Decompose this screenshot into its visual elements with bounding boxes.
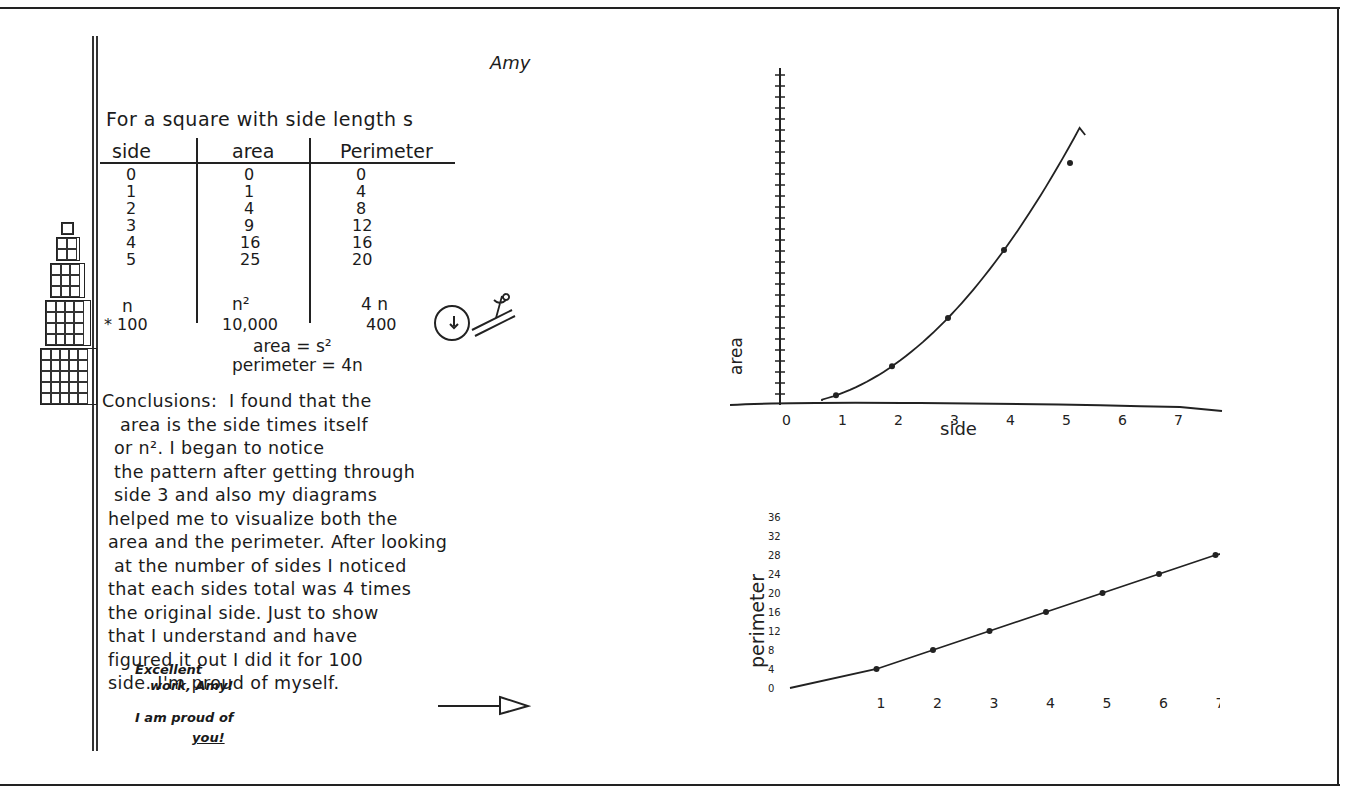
square-diagram — [50, 263, 85, 298]
x-tick-label: 4 — [1046, 695, 1055, 711]
table-cell: 8 — [356, 200, 366, 217]
data-point — [1213, 552, 1219, 558]
perimeter-vs-side-chart: 048121620242832361234567perimeter — [720, 490, 1220, 730]
table-cell: 1 — [244, 183, 254, 200]
data-point — [987, 628, 993, 634]
snail-doodle-icon — [420, 280, 540, 360]
x-tick-label: 1 — [877, 695, 886, 711]
y-tick-label: 16 — [768, 607, 781, 618]
table-header-area: area — [232, 140, 274, 162]
x-tick-label: 6 — [1118, 412, 1127, 428]
x-tick-label: 2 — [933, 695, 942, 711]
data-point — [874, 666, 880, 672]
right-arrow-icon — [436, 694, 531, 718]
x-tick-label: 5 — [1103, 695, 1112, 711]
x-tick-label: 2 — [894, 412, 903, 428]
table-cell: 4 — [244, 200, 254, 217]
x-tick-label: 0 — [782, 412, 791, 428]
y-axis-label: area — [726, 337, 746, 375]
x-axis — [730, 403, 1222, 411]
x-tick-label: 7 — [1216, 695, 1221, 711]
conclusions-text: Conclusions: I found that the area is th… — [102, 390, 447, 696]
x-tick-label: 4 — [1006, 412, 1015, 428]
table-cell: 1 — [126, 183, 136, 200]
table-header-perimeter: Perimeter — [340, 140, 433, 162]
page-frame-right — [1337, 7, 1339, 786]
square-diagram — [45, 300, 91, 346]
y-tick-label: 28 — [768, 550, 781, 561]
table-cell: 5 — [126, 251, 136, 268]
table-cell: 25 — [240, 251, 260, 268]
teacher-comment-line4: you! — [192, 730, 225, 745]
area-formula: area = s² — [253, 336, 332, 356]
table-header-side: side — [112, 140, 151, 162]
square-diagram — [40, 348, 97, 405]
x-tick-label: 7 — [1174, 412, 1183, 428]
table-cell: 0 — [244, 166, 254, 183]
example-side: * 100 — [104, 316, 148, 333]
intro-text: For a square with side length s — [106, 108, 414, 130]
y-tick-label: 12 — [768, 626, 781, 637]
teacher-comment-line1: Excellent — [135, 662, 202, 677]
example-perimeter: 400 — [366, 316, 397, 333]
data-point — [1100, 590, 1106, 596]
data-point — [1156, 571, 1162, 577]
table-cell: 20 — [352, 251, 372, 268]
square-diagrams — [40, 220, 95, 407]
y-tick-label: 4 — [768, 664, 774, 675]
table-cell: 0 — [356, 166, 366, 183]
teacher-comment-line2: work, Amy! — [150, 678, 233, 693]
table-cell: 3 — [126, 217, 136, 234]
table-cell: 2 — [126, 200, 136, 217]
table-cell: 9 — [244, 217, 254, 234]
table-header-rule — [100, 162, 455, 164]
table-divider — [196, 138, 198, 323]
square-diagram — [61, 222, 74, 235]
x-tick-label: 6 — [1159, 695, 1168, 711]
y-tick-label: 8 — [768, 645, 774, 656]
perimeter-formula: perimeter = 4n — [232, 355, 363, 375]
general-area: n² — [232, 296, 250, 313]
student-name: Amy — [490, 52, 531, 73]
table-cell: 16 — [352, 234, 372, 251]
square-diagram — [56, 237, 80, 261]
general-side: n — [122, 298, 133, 315]
data-point — [945, 315, 951, 321]
table-cell: 12 — [352, 217, 372, 234]
example-area: 10,000 — [222, 316, 278, 333]
teacher-comment-line3: I am proud of — [135, 710, 234, 725]
data-point — [889, 363, 895, 369]
area-vs-side-chart: 01234567sidearea — [720, 50, 1240, 450]
table-cell: 4 — [126, 234, 136, 251]
data-point — [1067, 160, 1073, 166]
x-axis-label: side — [940, 418, 977, 439]
area-curve — [822, 128, 1085, 401]
table-cell: 0 — [126, 166, 136, 183]
page-frame-bottom — [0, 784, 1340, 786]
y-tick-label: 36 — [768, 512, 781, 523]
y-tick-label: 20 — [768, 588, 781, 599]
table-cell: 16 — [240, 234, 260, 251]
general-perimeter: 4 n — [361, 296, 388, 313]
y-tick-label: 24 — [768, 569, 781, 580]
data-point — [833, 392, 839, 398]
y-tick-label: 32 — [768, 531, 781, 542]
perimeter-line — [790, 541, 1220, 688]
y-tick-label: 0 — [768, 683, 774, 694]
table-divider — [309, 138, 311, 323]
page-frame-top — [0, 7, 1340, 9]
data-point — [1043, 609, 1049, 615]
y-axis-label: perimeter — [746, 574, 768, 668]
x-tick-label: 3 — [990, 695, 999, 711]
data-point — [930, 647, 936, 653]
x-tick-label: 5 — [1062, 412, 1071, 428]
x-tick-label: 1 — [838, 412, 847, 428]
data-point — [1001, 247, 1007, 253]
table-cell: 4 — [356, 183, 366, 200]
